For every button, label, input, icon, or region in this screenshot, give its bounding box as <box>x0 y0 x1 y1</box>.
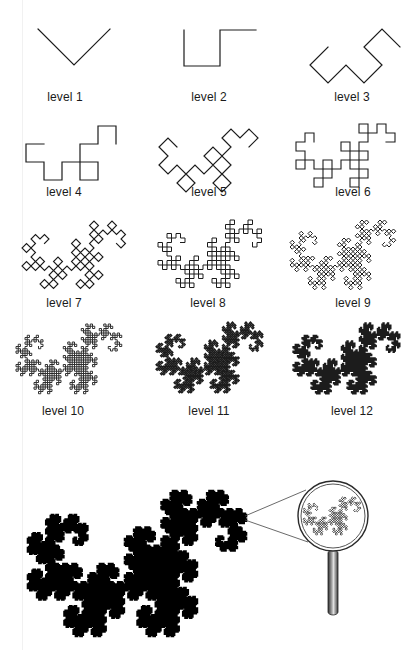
level-label: level 6 <box>335 185 370 199</box>
level-label: level 3 <box>334 90 369 104</box>
magnifying-glass-icon <box>245 481 368 615</box>
level-label: level 7 <box>46 296 81 310</box>
large-dragon-curve <box>28 491 246 636</box>
dragon-curve-level-10 <box>16 324 122 394</box>
level-label: level 5 <box>191 185 226 199</box>
dragon-curve-level-8 <box>158 220 262 288</box>
dragon-curve-level-5 <box>159 129 258 192</box>
level-label: level 10 <box>42 404 84 418</box>
dragon-curve-level-9 <box>290 220 396 290</box>
dragon-curve-figure: level 1 level 2 level 3 level 4 level 5 … <box>0 0 418 650</box>
dragon-curve-level-12 <box>293 323 400 394</box>
level-label: level 2 <box>191 90 226 104</box>
level-label: level 12 <box>331 404 373 418</box>
dragon-curve-level-3 <box>310 29 400 83</box>
large-dragon-fractal <box>28 491 246 636</box>
dragon-curve-level-4 <box>26 126 116 180</box>
level-label: level 11 <box>188 404 229 418</box>
magnifier-handle <box>328 550 338 615</box>
level-label: level 8 <box>190 296 225 310</box>
level-label: level 4 <box>46 185 81 199</box>
dragon-curve-level-7 <box>22 221 126 289</box>
dragon-curve-level-11 <box>156 322 263 393</box>
dragon-curve-level-2 <box>184 30 256 66</box>
dragon-curve-level-6 <box>296 124 395 187</box>
level-curves-grid <box>16 29 400 394</box>
zoom-ray-line <box>245 490 306 516</box>
level-label: level 9 <box>335 296 370 310</box>
level-label: level 1 <box>47 90 82 104</box>
dragon-curve-level-1 <box>38 29 110 65</box>
